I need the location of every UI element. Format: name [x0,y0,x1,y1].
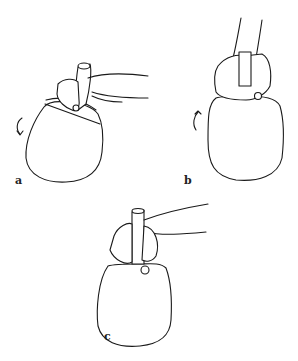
panel-label-c: c [104,330,111,343]
panel-b-drawing [194,18,283,180]
grip-illustration [0,0,298,361]
panel-a-drawing [17,63,148,182]
panel-c-drawing [97,204,208,346]
rotation-arrow-icon [194,112,198,130]
panel-label-a: a [15,174,22,187]
panel-label-b: b [184,174,192,187]
